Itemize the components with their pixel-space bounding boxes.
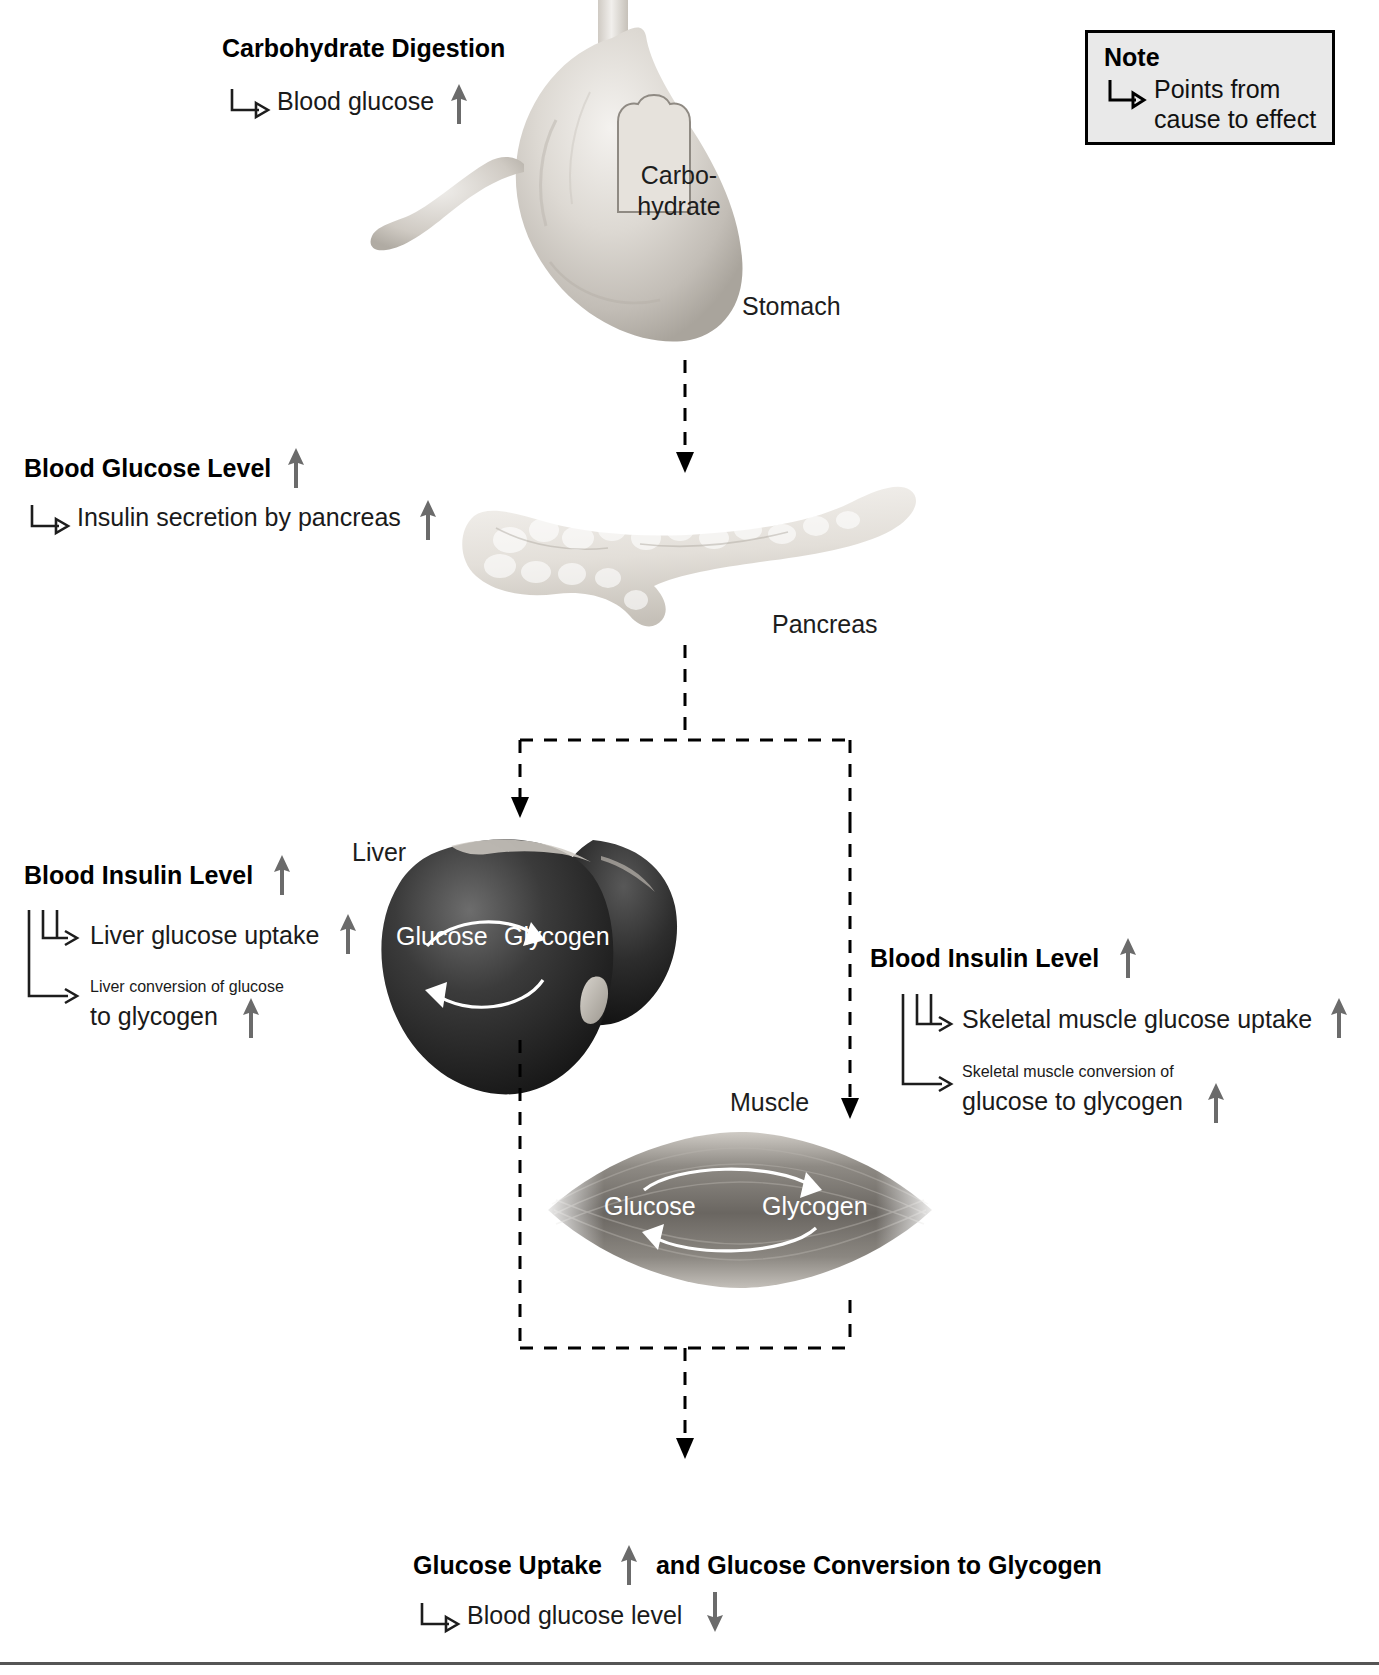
summary-heading-part2: and Glucose Conversion to Glycogen — [656, 1551, 1102, 1580]
blood-glucose-item-row: Insulin secretion by pancreas — [28, 500, 439, 540]
flow-split-pancreas — [500, 645, 870, 820]
section-summary: Glucose Uptake and Glucose Conversion to… — [413, 1545, 1102, 1585]
cause-to-effect-hook-icon — [28, 503, 70, 537]
liver-item-2-row: Liver conversion of glucose to glycogen — [90, 978, 284, 1038]
item-label-line2: to glycogen — [90, 1001, 218, 1032]
up-arrow-icon — [1117, 938, 1139, 978]
item-label: Skeletal muscle glucose uptake — [962, 1004, 1312, 1035]
section-heading: Blood Glucose Level — [24, 454, 271, 483]
section-heading: Blood Insulin Level — [870, 944, 1099, 973]
item-label-line2: glucose to glycogen — [962, 1086, 1183, 1117]
up-arrow-icon — [417, 500, 439, 540]
summary-heading-part1: Glucose Uptake — [413, 1551, 602, 1580]
carbohydrate-inset-label: Carbo- hydrate — [624, 160, 734, 221]
cause-to-effect-hook-icon — [228, 87, 270, 121]
section-blood-glucose-level: Blood Glucose Level — [24, 448, 307, 488]
flow-merge-to-summary — [500, 1040, 870, 1460]
note-title: Note — [1104, 43, 1318, 72]
up-arrow-icon — [1328, 998, 1350, 1038]
up-arrow-icon — [1205, 1083, 1227, 1123]
bottom-divider — [0, 1662, 1379, 1665]
section-blood-insulin-level-liver: Blood Insulin Level — [24, 855, 293, 895]
up-arrow-icon — [285, 448, 307, 488]
item-label-line1: Liver conversion of glucose — [90, 978, 284, 996]
section-heading: Blood Insulin Level — [24, 861, 253, 890]
down-arrow-icon — [704, 1592, 726, 1632]
liver-cycle-glycogen-label: Glycogen — [504, 922, 610, 951]
item-label: Liver glucose uptake — [90, 920, 319, 951]
summary-item-row: Blood glucose level — [418, 1598, 726, 1635]
diagram-canvas: Note Points from cause to effect Carbohy… — [0, 0, 1379, 1675]
liver-branch-bracket — [24, 908, 96, 1018]
liver-item-1-row: Liver glucose uptake — [90, 920, 359, 954]
item-label: Blood glucose level — [467, 1600, 682, 1631]
up-arrow-icon — [271, 855, 293, 895]
up-arrow-icon — [618, 1545, 640, 1585]
up-arrow-icon — [240, 998, 262, 1038]
liver-label: Liver — [352, 838, 406, 867]
cause-to-effect-hook-icon — [1106, 78, 1146, 110]
note-text: Points from cause to effect — [1154, 74, 1316, 134]
note-box: Note Points from cause to effect — [1085, 30, 1335, 145]
section-blood-insulin-level-muscle: Blood Insulin Level — [870, 938, 1139, 978]
muscle-item-2-row: Skeletal muscle conversion of glucose to… — [962, 1063, 1227, 1123]
stomach-label: Stomach — [742, 292, 841, 321]
flow-arrow-stomach-to-pancreas — [655, 360, 715, 475]
item-label: Insulin secretion by pancreas — [77, 502, 401, 533]
liver-cycle-glucose-label: Glucose — [396, 922, 488, 951]
cause-to-effect-hook-icon — [418, 1601, 460, 1635]
muscle-item-1-row: Skeletal muscle glucose uptake — [962, 1004, 1350, 1038]
pancreas-label: Pancreas — [772, 610, 878, 639]
item-label-line1: Skeletal muscle conversion of — [962, 1063, 1227, 1081]
muscle-branch-bracket — [898, 992, 970, 1110]
